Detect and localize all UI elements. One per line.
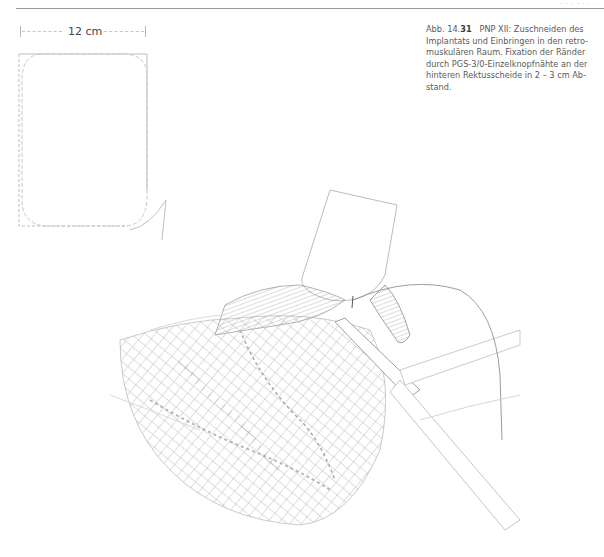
muscle-right xyxy=(370,285,410,343)
figure-caption: Abb. 14.31 PNP XII: Zuschneiden des Impl… xyxy=(426,24,598,94)
scale-label: 12 cm xyxy=(68,25,102,38)
retractor-upper xyxy=(302,190,397,301)
running-header: · · · · · · · xyxy=(561,0,596,8)
surgical-illustration xyxy=(80,140,580,557)
scale-tick-left xyxy=(20,26,21,37)
scale-dash-left xyxy=(22,31,62,32)
scale-dimension: 12 cm xyxy=(18,25,148,39)
scale-dash-right xyxy=(104,31,144,32)
header-rule xyxy=(16,8,604,9)
retractor-lower xyxy=(400,330,520,385)
caption-text: PNP XII: Zuschneiden des Implantats und … xyxy=(426,24,588,92)
mesh-implant xyxy=(120,316,386,525)
caption-figure-number: 31 xyxy=(460,24,471,34)
caption-prefix: Abb. 14. xyxy=(426,24,460,34)
scale-tick-right xyxy=(145,26,146,37)
